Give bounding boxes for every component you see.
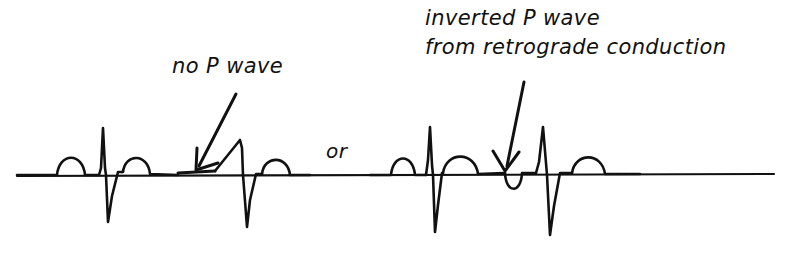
qrs-complex-3: [426, 127, 443, 232]
qrs-complex-4: [536, 127, 572, 235]
t-wave-2: [262, 160, 310, 175]
p-wave-upright-2: [370, 159, 426, 176]
arrow-to-absent-p-wave: [196, 94, 236, 170]
label-no-p-wave: no P wave: [172, 52, 283, 81]
qrs-complex-2: [215, 140, 262, 227]
label-inverted-p-line-1: inverted P wave: [425, 4, 727, 33]
ecg-baseline: [17, 174, 774, 176]
arrow-to-inverted-p-wave: [493, 82, 524, 171]
ecg-diagram-figure: no P wave inverted P wave from retrograd…: [0, 0, 791, 259]
t-wave-4: [572, 157, 640, 174]
t-wave-3: [443, 157, 505, 174]
label-inverted-p-wave: inverted P wave from retrograde conducti…: [425, 4, 727, 62]
arrow-head: [493, 151, 519, 171]
arrow-shaft: [199, 94, 236, 166]
arrow-shaft: [507, 82, 524, 166]
strip-inverted-p-wave: [370, 127, 640, 235]
strip-no-p-wave: [17, 128, 310, 227]
label-or-separator: or: [326, 138, 347, 166]
t-wave-1: [122, 158, 178, 175]
p-wave-upright-1: [17, 158, 99, 175]
label-inverted-p-line-2: from retrograde conduction: [425, 33, 727, 62]
